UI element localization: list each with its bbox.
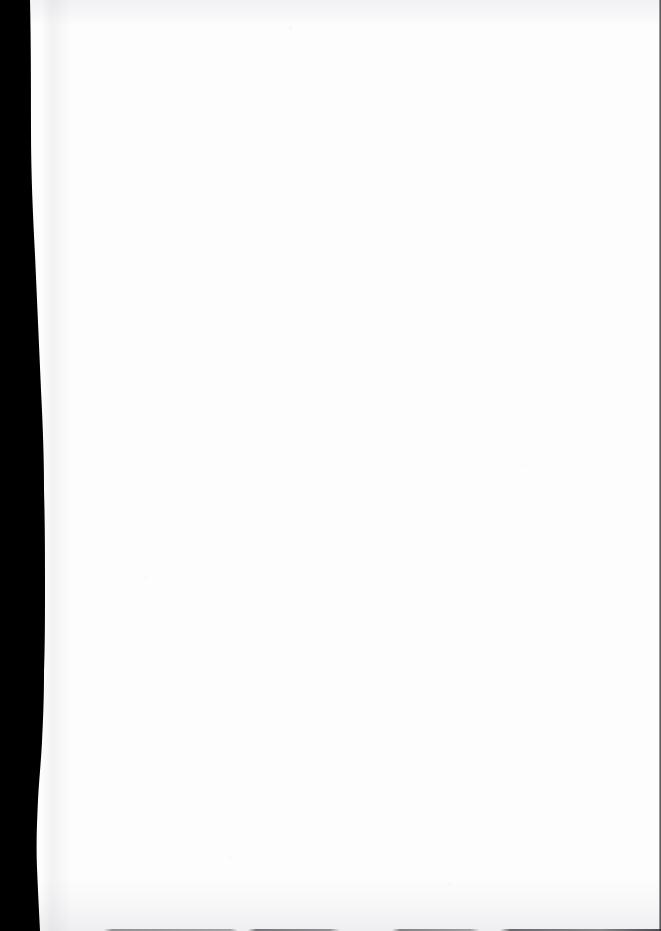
scanned-document-page [0,0,661,931]
page-body-text [70,40,641,891]
